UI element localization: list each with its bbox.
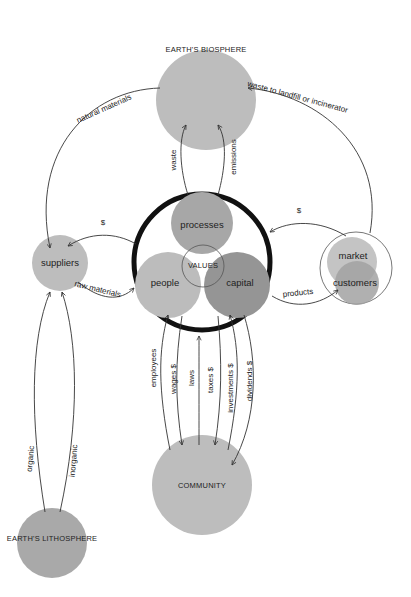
biosphere-node: [156, 50, 256, 150]
raw-materials-label: raw materials: [74, 279, 122, 299]
dividends-label: dividends $: [245, 360, 254, 401]
processes-label: processes: [180, 219, 224, 230]
supplier-payment-label: $: [101, 218, 106, 227]
employees-label: employees: [149, 349, 158, 388]
taxes-label: taxes $: [206, 367, 215, 393]
lithosphere-node: [17, 508, 87, 578]
market-payment-label: $: [297, 206, 302, 215]
biosphere-label: EARTH'S BIOSPHERE: [166, 45, 247, 54]
lithosphere-label: EARTH'S LITHOSPHERE: [7, 534, 98, 543]
people-label: people: [151, 277, 180, 288]
laws-label: laws: [187, 370, 196, 386]
community-label: COMMUNITY: [178, 481, 226, 490]
natural-materials-label: natural materials: [75, 93, 133, 125]
waste-to-landfill-label: waste to landfill or incinerator: [246, 79, 350, 115]
products-label: products: [282, 287, 313, 299]
investments-label: investments $: [226, 363, 235, 413]
customers-label: customers: [333, 277, 377, 288]
emissions-label: emissions: [229, 139, 238, 175]
capital-label: capital: [226, 277, 253, 288]
waste-label: waste: [169, 149, 178, 171]
suppliers-label: suppliers: [41, 257, 79, 268]
values-label: VALUES: [188, 261, 218, 270]
inorganic-label: inorganic: [68, 444, 80, 477]
business-ecosystem-diagram: EARTH'S BIOSPHERE EARTH'S LITHOSPHERE CO…: [0, 0, 411, 597]
market-label: market: [338, 250, 367, 261]
market-node: [320, 232, 392, 305]
organic-label: organic: [25, 445, 36, 472]
wages-label: wages $: [169, 364, 178, 395]
